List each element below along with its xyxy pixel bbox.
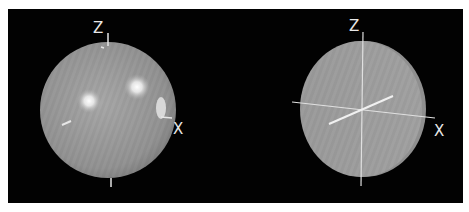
highlight-left [77,89,101,113]
blob [156,97,166,119]
x-label-right: X [434,122,444,140]
right-disc-view: Z X [292,17,444,186]
z-label-right: Z [349,17,359,35]
z-label-left: Z [93,19,103,37]
left-sphere-view: Z X [40,19,183,187]
highlight-right [124,74,150,100]
x-label-left: X [173,120,183,138]
figure-canvas: Z X Z X [0,0,469,212]
